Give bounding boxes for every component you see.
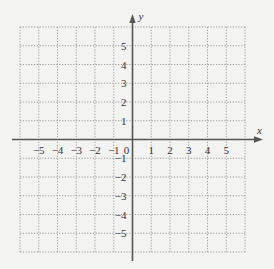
y-tick-label: −3 [115,190,127,202]
coordinate-grid: xy−5−4−3−2−101234554321−1−2−3−4−5 [0,0,274,269]
x-axis-arrow-icon [254,136,263,142]
x-tick-label: 1 [149,144,155,156]
x-tick-label: −5 [33,144,45,156]
y-axis-arrow-icon [129,14,135,23]
y-tick-label: 1 [121,115,127,127]
y-tick-label: 2 [121,96,127,108]
x-tick-label: −2 [89,144,101,156]
y-tick-label: −1 [115,152,127,164]
x-tick-label: 5 [224,144,230,156]
y-axis-label: y [138,10,144,22]
y-tick-label: 5 [121,40,127,52]
x-tick-label: −3 [70,144,82,156]
y-tick-label: −4 [115,209,127,221]
y-tick-label: −5 [115,227,127,239]
y-tick-label: 4 [121,59,127,71]
x-tick-label: 4 [205,144,211,156]
x-tick-label: 2 [167,144,173,156]
x-tick-label: −4 [52,144,64,156]
coordinate-plane: xy−5−4−3−2−101234554321−1−2−3−4−5 x y [0,0,274,269]
y-tick-label: −2 [115,171,127,183]
x-tick-label: 3 [186,144,192,156]
y-tick-label: 3 [121,77,127,89]
x-axis-label: x [256,124,262,136]
